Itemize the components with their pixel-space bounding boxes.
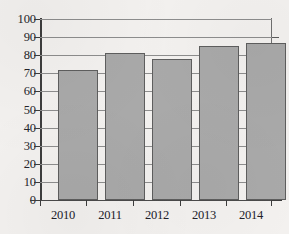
bar-2014[interactable] (246, 43, 286, 200)
bar-2010[interactable] (58, 70, 98, 200)
y-axis-tick-label: 90 (2, 31, 36, 43)
y-axis-tick-label: 10 (2, 176, 36, 188)
y-axis-tick-label: 70 (2, 67, 36, 79)
gridline-100 (40, 19, 272, 20)
x-axis-tick-mark (271, 200, 272, 206)
y-axis-tick-label: 20 (2, 158, 36, 170)
y-axis-tick-label: 60 (2, 85, 36, 97)
gridline-0-baseline (40, 200, 272, 201)
gridline-90 (40, 37, 272, 38)
y-axis-right-tick-mark (272, 37, 279, 38)
plot-area (40, 19, 272, 200)
x-axis-tick-mark (86, 200, 87, 206)
y-axis-tick-label: 30 (2, 140, 36, 152)
y-axis-tick-label: 80 (2, 49, 36, 61)
x-axis-tick-mark (40, 200, 41, 206)
bar-2012[interactable] (152, 59, 192, 200)
x-axis-tick-label: 2014 (221, 208, 281, 222)
y-axis-tick-label: 50 (2, 104, 36, 116)
y-axis-tick-label: 40 (2, 122, 36, 134)
bar-2011[interactable] (105, 53, 145, 200)
bar-2013[interactable] (199, 46, 239, 200)
x-axis-tick-mark (180, 200, 181, 206)
x-axis-tick-mark (226, 200, 227, 206)
x-axis-tick-mark (133, 200, 134, 206)
bar-chart-figure: 100 90 80 70 60 50 40 30 20 10 0 (0, 0, 289, 234)
y-axis-tick-label: 100 (2, 13, 36, 25)
